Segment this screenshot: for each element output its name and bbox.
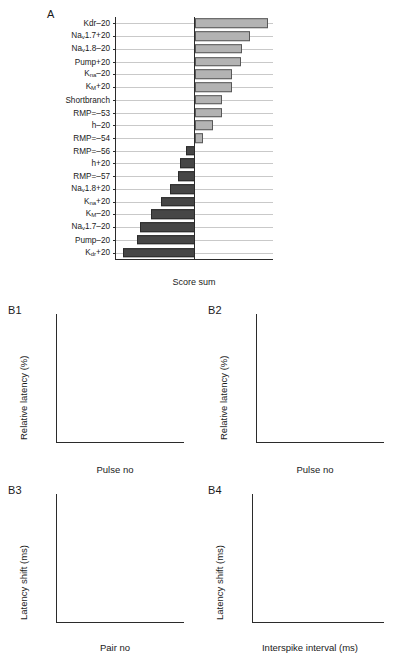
bar <box>195 70 232 80</box>
panel-b4-x-axis-label: Interspike interval (ms) <box>222 642 398 653</box>
y-tick <box>113 125 116 126</box>
bar <box>137 235 195 245</box>
bar <box>195 108 222 118</box>
y-tick <box>113 214 116 215</box>
bar <box>195 19 268 29</box>
panel-b3-letter: B3 <box>8 484 22 496</box>
y-tick <box>113 202 116 203</box>
y-tick <box>113 87 116 88</box>
bar <box>195 95 222 105</box>
panel-b1-y-axis-label: Relative latency (%) <box>18 356 29 440</box>
y-tick <box>113 151 116 152</box>
bar-category-label: Shortbranch <box>65 95 110 104</box>
y-tick <box>113 163 116 164</box>
panel-b1-x-axis-label: Pulse no <box>40 464 190 475</box>
bar-category-label: KM+20 <box>86 82 110 93</box>
bar-category-label: Kdr+20 <box>85 247 110 258</box>
bar <box>151 210 195 220</box>
panel-b2-x-axis-label: Pulse no <box>240 464 390 475</box>
panel-b1: B1 Pulse no Relative latency (%) <box>0 300 200 490</box>
bar <box>195 133 203 143</box>
panel-b2-curves <box>256 314 392 450</box>
panel-b1-letter: B1 <box>8 304 22 316</box>
panel-b4-y-axis-label: Latency shift (ms) <box>214 545 225 620</box>
y-tick <box>113 62 116 63</box>
panel-a-letter: A <box>47 8 55 20</box>
bar <box>195 120 213 130</box>
y-tick <box>113 253 116 254</box>
panel-a: A Kdr–20Nav1.7+20Nav1.8–20Pump+20Kna–20K… <box>0 0 400 300</box>
bar-category-label: RMP=–57 <box>73 172 110 181</box>
bar-category-label: RMP=–53 <box>73 108 110 117</box>
bar-category-label: Pump+20 <box>75 57 110 66</box>
panel-b1-curves <box>56 314 192 450</box>
bar-category-label: Pump–20 <box>75 235 110 244</box>
panel-a-x-axis <box>115 259 273 260</box>
panel-b2-axes <box>256 314 376 442</box>
bar-category-label: RMP=–54 <box>73 133 110 142</box>
y-tick <box>113 189 116 190</box>
y-tick <box>113 36 116 37</box>
bar-category-label: Nav1.8–20 <box>71 43 110 54</box>
y-tick <box>113 113 116 114</box>
bar-category-label: Kdr–20 <box>84 19 110 28</box>
bar <box>161 197 195 207</box>
bar-category-label: Nav1.7–20 <box>71 222 110 233</box>
bar-category-label: Kna+20 <box>84 196 110 207</box>
y-tick <box>113 100 116 101</box>
bar-category-label: h+20 <box>92 159 110 168</box>
panel-b3-curves <box>56 494 192 630</box>
panel-b1-axes <box>56 314 176 442</box>
panel-b2-y-axis-label: Relative latency (%) <box>218 356 229 440</box>
bar <box>195 44 242 54</box>
y-tick <box>113 138 116 139</box>
bar <box>195 31 250 41</box>
bar-category-label: Kna–20 <box>84 69 110 80</box>
bar-category-label: Nav1.8+20 <box>71 183 110 194</box>
bar <box>170 184 195 194</box>
panel-a-zero-axis <box>194 17 195 259</box>
bar <box>178 171 195 181</box>
y-tick <box>113 49 116 50</box>
y-tick <box>113 176 116 177</box>
bar-category-label: KM–20 <box>86 209 110 220</box>
panel-b4-letter: B4 <box>208 484 222 496</box>
bar-category-label: Nav1.7+20 <box>71 31 110 42</box>
y-tick <box>113 240 116 241</box>
panel-b4: B4 Interspike interval (ms) Latency shif… <box>200 480 400 662</box>
y-tick <box>113 23 116 24</box>
y-tick <box>113 74 116 75</box>
bar <box>123 248 195 258</box>
y-tick <box>113 227 116 228</box>
panel-b3: B3 Pair no Latency shift (ms) <box>0 480 200 662</box>
bar <box>195 57 241 67</box>
panel-b3-axes <box>56 494 176 622</box>
bar <box>195 82 232 92</box>
bar-category-label: h–20 <box>92 121 110 130</box>
bar <box>140 222 195 232</box>
panel-b4-axes <box>252 494 376 622</box>
panel-a-x-axis-label: Score sum <box>115 277 273 287</box>
panel-b3-x-axis-label: Pair no <box>40 642 190 653</box>
bar <box>180 159 195 169</box>
panel-b2-letter: B2 <box>208 304 222 316</box>
panel-b2: B2 Pulse no Relative latency (%) <box>200 300 400 490</box>
panel-b4-curves <box>252 494 392 630</box>
panel-b3-y-axis-label: Latency shift (ms) <box>18 545 29 620</box>
bar-category-label: RMP=–56 <box>73 146 110 155</box>
